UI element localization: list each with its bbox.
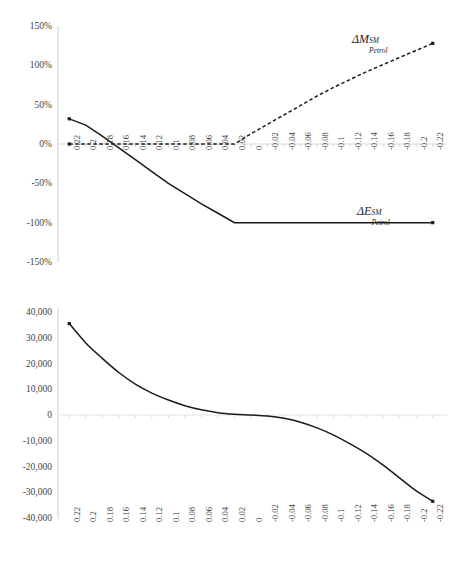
x-tick-label: -0.08: [321, 504, 330, 522]
top-endpoint-markers: [68, 42, 435, 225]
x-tick-label: -0.02: [271, 132, 280, 150]
x-tick-label: 0: [255, 146, 264, 150]
y-tick-label: 150%: [0, 21, 52, 31]
x-tick-label: -0.18: [403, 132, 412, 150]
x-tick-label: 0.04: [221, 135, 230, 150]
bottom-chart-panel: 40,00030,00020,00010,0000-10,000-20,000-…: [0, 290, 458, 574]
x-tick-label: -0.02: [271, 504, 280, 522]
top-chart-panel: 150%100%50%0%-50%-100%-150% 0.220.20.180…: [0, 0, 458, 290]
x-tick-label: 0.02: [238, 135, 247, 150]
x-tick-label: -0.18: [403, 504, 412, 522]
x-tick-label: -0.06: [304, 132, 313, 150]
x-tick-label: -0.22: [436, 132, 445, 150]
annotation-base-delta-e: ΔE: [357, 204, 371, 218]
x-tick-label: 0.2: [89, 139, 98, 150]
x-tick-label: 0.1: [172, 139, 181, 150]
x-tick-label: 0.22: [73, 507, 82, 522]
y-tick-label: 40,000: [0, 307, 52, 317]
annotation-base-delta-m: ΔM: [352, 32, 369, 46]
x-tick-label: -0.16: [387, 132, 396, 150]
series-annotation-delta-m-petrol: ΔMSMPetrol: [352, 32, 369, 47]
x-tick-label: -0.1: [337, 136, 346, 150]
y-tick-label: 50%: [0, 100, 52, 110]
y-tick-label: 30,000: [0, 333, 52, 343]
x-tick-label: -0.22: [436, 504, 445, 522]
x-tick-label: 0.02: [238, 507, 247, 522]
annotation-superscript-sm-2: SM: [371, 208, 381, 217]
x-tick-label: 0.14: [139, 135, 148, 150]
y-tick-label: -10,000: [0, 436, 52, 446]
x-tick-label: -0.12: [354, 132, 363, 150]
x-tick-label: -0.04: [288, 504, 297, 522]
y-tick-label: 20,000: [0, 359, 52, 369]
y-tick-label: -40,000: [0, 513, 52, 523]
y-tick-label: -100%: [0, 218, 52, 228]
y-tick-label: -150%: [0, 257, 52, 267]
x-tick-label: -0.06: [304, 504, 313, 522]
x-tick-label: 0.06: [205, 507, 214, 522]
x-tick-label: -0.2: [420, 508, 429, 522]
y-tick-label: -50%: [0, 178, 52, 188]
y-tick-label: -30,000: [0, 487, 52, 497]
series-line-delta-m-petrol: [69, 43, 432, 144]
x-tick-label: 0.18: [106, 507, 115, 522]
x-tick-label: -0.12: [354, 504, 363, 522]
x-tick-label: -0.08: [321, 132, 330, 150]
x-tick-label: 0.06: [205, 135, 214, 150]
y-tick-label: -20,000: [0, 462, 52, 472]
x-tick-label: 0.2: [89, 511, 98, 522]
annotation-superscript-sm: SM: [369, 36, 379, 45]
x-tick-label: 0.18: [106, 135, 115, 150]
series-line-net-value: [69, 324, 432, 502]
y-tick-label: 0: [0, 410, 52, 420]
x-tick-label: 0.22: [73, 135, 82, 150]
x-tick-label: -0.14: [370, 132, 379, 150]
x-tick-label: 0.14: [139, 507, 148, 522]
y-tick-label: 0%: [0, 139, 52, 149]
x-tick-label: 0.16: [122, 507, 131, 522]
x-tick-label: -0.16: [387, 504, 396, 522]
x-tick-label: -0.1: [337, 508, 346, 522]
x-tick-label: 0.08: [188, 135, 197, 150]
x-tick-label: -0.04: [288, 132, 297, 150]
x-tick-label: 0: [255, 518, 264, 522]
x-tick-label: 0.12: [155, 507, 164, 522]
bottom-endpoint-markers: [68, 322, 435, 503]
annotation-subscript-petrol-2: Petrol: [371, 218, 389, 227]
y-tick-label: 10,000: [0, 384, 52, 394]
bottom-chart-plot: [0, 290, 458, 574]
series-annotation-delta-e-petrol: ΔESMPetrol: [357, 204, 371, 219]
x-tick-label: 0.12: [155, 135, 164, 150]
x-tick-label: 0.16: [122, 135, 131, 150]
x-tick-label: 0.04: [221, 507, 230, 522]
x-tick-label: -0.14: [370, 504, 379, 522]
x-tick-label: 0.08: [188, 507, 197, 522]
x-tick-label: 0.1: [172, 511, 181, 522]
annotation-subscript-petrol: Petrol: [369, 46, 387, 55]
y-tick-label: 100%: [0, 60, 52, 70]
x-tick-label: -0.2: [420, 136, 429, 150]
